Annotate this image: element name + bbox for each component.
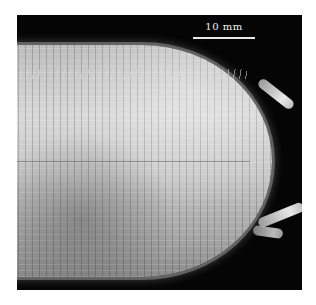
hair-tuft-upper xyxy=(256,77,295,111)
scale-bar-label: 10 mm xyxy=(193,21,255,33)
micrograph-frame: 10 mm xyxy=(17,15,302,290)
scale-bar: 10 mm xyxy=(193,21,255,39)
specimen-body xyxy=(17,45,272,277)
scale-bar-line xyxy=(193,37,255,39)
hair-tuft-bottom xyxy=(252,225,283,239)
setae-fringe xyxy=(17,69,247,79)
hair-tuft-lower xyxy=(257,201,302,228)
midline-seam xyxy=(17,161,250,162)
